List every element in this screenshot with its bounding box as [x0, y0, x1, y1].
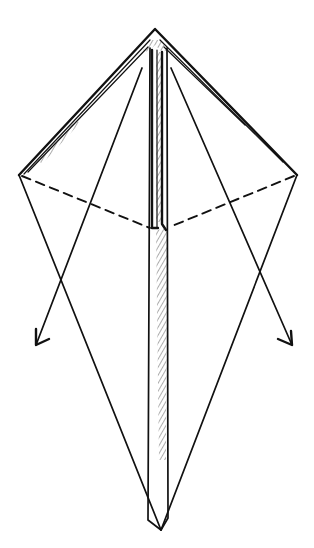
left-valley-fold — [22, 176, 150, 228]
left-edge-hatch — [38, 120, 80, 164]
left-fold-arrow — [36, 68, 142, 345]
strip-hatch-bottom — [156, 228, 167, 460]
central-strip — [148, 48, 168, 530]
right-valley-fold — [172, 176, 294, 226]
arrowhead-icon — [36, 329, 49, 345]
strip-hatch-top — [156, 52, 161, 222]
top-layer-edges — [24, 40, 283, 174]
arrowhead-icon — [278, 331, 292, 345]
top-hatch — [143, 40, 168, 52]
right-fold-arrow — [171, 68, 292, 345]
origami-diagram — [0, 0, 314, 548]
